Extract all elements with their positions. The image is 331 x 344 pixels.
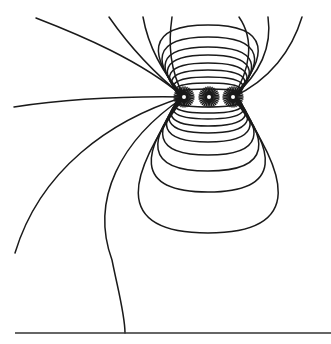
field-line: [105, 97, 184, 333]
point-charge-icon: [182, 95, 186, 99]
point-charge-icon: [207, 95, 211, 99]
field-line: [15, 97, 184, 253]
field-lines-canvas: [0, 0, 331, 344]
point-charge-icon: [231, 95, 235, 99]
field-loop: [138, 97, 278, 233]
field-loop: [151, 97, 265, 192]
field-line-diagram: [0, 0, 331, 344]
